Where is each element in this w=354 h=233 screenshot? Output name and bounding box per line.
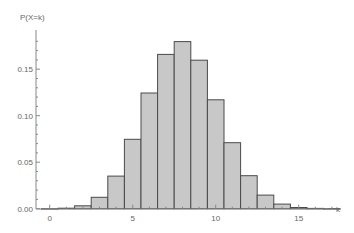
x-tick-label: 5 <box>130 214 135 223</box>
bar-k-10 <box>207 100 224 209</box>
y-tick-label: 0.05 <box>17 158 33 167</box>
y-tick-label: 0.10 <box>17 112 33 121</box>
x-tick-label: 0 <box>47 214 52 223</box>
bar-k-11 <box>224 143 241 209</box>
x-tick-label: 15 <box>294 214 303 223</box>
bar-k-6 <box>141 93 158 209</box>
y-axis-label: P(X=k) <box>20 13 45 22</box>
bar-k-4 <box>108 176 125 209</box>
bar-k-9 <box>191 60 208 209</box>
bar-k-8 <box>174 42 191 209</box>
bars <box>41 42 340 210</box>
bar-k-13 <box>257 195 274 209</box>
y-tick-label: 0.15 <box>17 65 33 74</box>
bar-k-7 <box>158 54 175 208</box>
y-ticks: 0.000.050.100.15 <box>17 41 40 213</box>
y-tick-label: 0.00 <box>17 205 33 214</box>
bar-k-12 <box>241 176 258 209</box>
x-tick-label: 10 <box>211 214 220 223</box>
chart: 0.000.050.100.15 051015 P(X=k) k <box>0 0 354 233</box>
bar-k-5 <box>124 139 141 208</box>
